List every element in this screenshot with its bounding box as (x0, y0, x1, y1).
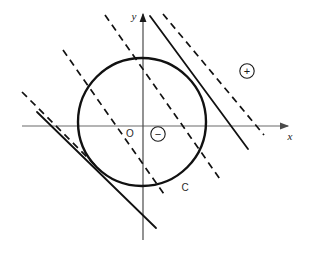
coordinate-diagram: x y O C − + (0, 0, 311, 255)
exterior-region-marker: + (240, 64, 254, 78)
circle-label: C (181, 182, 188, 193)
minus-sign-glyph: − (155, 128, 161, 140)
interior-region-marker: − (151, 127, 165, 141)
x-axis-label: x (287, 130, 293, 142)
origin-label: O (126, 128, 134, 139)
plus-sign-glyph: + (244, 65, 250, 77)
y-axis-label: y (131, 10, 137, 22)
